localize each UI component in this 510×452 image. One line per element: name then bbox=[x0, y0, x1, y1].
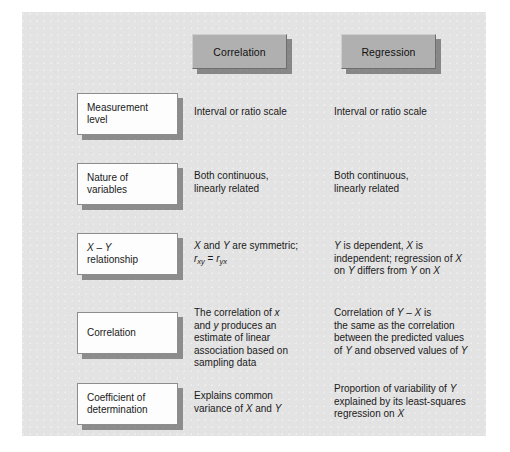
row-label-box-x-y-relationship: X – Y relationship bbox=[77, 233, 178, 275]
cell-measurement-level-regression: Interval or ratio scale bbox=[334, 106, 502, 119]
row-label-line1: Coefficient of bbox=[87, 392, 145, 403]
header-label-regression: Regression bbox=[361, 46, 415, 58]
row-label-line2: relationship bbox=[87, 254, 138, 265]
cell-correlation-regression: Correlation of Y – X is the same as the … bbox=[334, 307, 502, 357]
comparison-table-panel: Correlation Regression Measurement level… bbox=[22, 12, 486, 436]
row-label-box-correlation: Correlation bbox=[77, 312, 178, 354]
header-box-correlation: Correlation bbox=[192, 34, 287, 69]
row-label-coefficient-of-determination: Coefficient of determination bbox=[87, 392, 148, 417]
cell-nature-of-variables-correlation: Both continuous,linearly related bbox=[194, 170, 326, 195]
row-label-line2: variables bbox=[87, 184, 127, 195]
row-label-line1: Measurement bbox=[87, 102, 148, 113]
cell-x-y-relationship-regression: Y is dependent, X is independent; regres… bbox=[334, 240, 502, 278]
row-label-box-measurement-level: Measurement level bbox=[77, 93, 178, 135]
cell-x-y-relationship-correlation: X and Y are symmetric; rxy = ryx bbox=[194, 240, 326, 268]
row-label-line2: level bbox=[87, 114, 108, 125]
row-label-correlation: Correlation bbox=[87, 327, 136, 340]
row-label-x-y-relationship: X – Y relationship bbox=[87, 242, 138, 267]
cell-correlation-correlation: The correlation of x and y produces an e… bbox=[194, 307, 326, 370]
row-label-box-nature-of-variables: Nature of variables bbox=[77, 163, 178, 205]
figure-canvas: Correlation Regression Measurement level… bbox=[0, 0, 510, 452]
row-label-line1: Nature of bbox=[87, 172, 128, 183]
row-label-box-coefficient-of-determination: Coefficient of determination bbox=[77, 383, 178, 425]
row-label-line1: Correlation bbox=[87, 327, 136, 338]
cell-measurement-level-correlation: Interval or ratio scale bbox=[194, 106, 326, 119]
header-label-correlation: Correlation bbox=[213, 46, 265, 58]
row-label-line2: determination bbox=[87, 404, 148, 415]
header-box-regression: Regression bbox=[341, 34, 436, 69]
cell-coefficient-of-determination-correlation: Explains common variance of X and Y bbox=[194, 390, 326, 415]
cell-coefficient-of-determination-regression: Proportion of variability of Y explained… bbox=[334, 383, 502, 421]
cell-nature-of-variables-regression: Both continuous,linearly related bbox=[334, 170, 502, 195]
row-label-measurement-level: Measurement level bbox=[87, 102, 148, 127]
row-label-nature-of-variables: Nature of variables bbox=[87, 172, 128, 197]
